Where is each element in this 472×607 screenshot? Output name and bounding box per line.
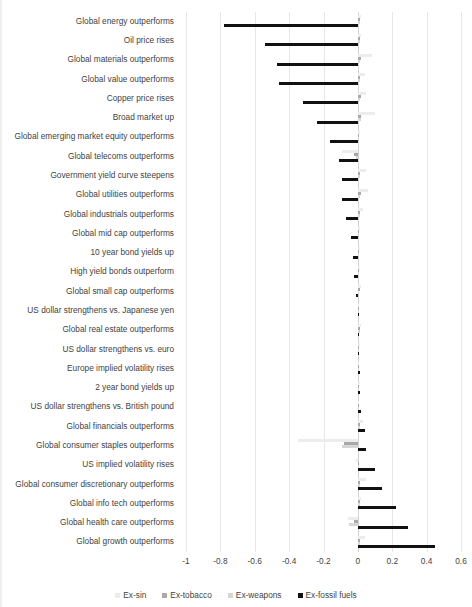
gridline: [220, 12, 221, 552]
category-label: Global consumer discretionary outperform…: [15, 480, 174, 489]
bar: [358, 40, 360, 43]
category-label: Global mid cap outperforms: [72, 229, 174, 238]
category-label: Global emerging market equity outperform…: [14, 132, 174, 141]
category-label: Global utilities outperforms: [76, 190, 174, 199]
legend-item[interactable]: Ex-fossil fuels: [298, 590, 357, 600]
gridline: [461, 12, 462, 552]
bar: [349, 523, 358, 526]
bar: [358, 21, 360, 24]
bar: [279, 82, 358, 85]
legend-item[interactable]: Ex-weapons: [228, 590, 282, 600]
gridline: [427, 12, 428, 552]
category-label: Global consumer staples outperforms: [36, 441, 174, 450]
bar: [346, 217, 358, 220]
bar: [354, 275, 357, 278]
gridline: [392, 12, 393, 552]
category-label: Global value outperforms: [81, 75, 174, 84]
category-label: Global small cap outperforms: [66, 287, 174, 296]
x-tick-label: -0.6: [248, 556, 262, 566]
bar: [358, 313, 359, 316]
category-label: US dollar strengthens vs. euro: [62, 345, 174, 354]
legend-item[interactable]: Ex-tobacco: [162, 590, 212, 600]
x-tick-label: 0.2: [386, 556, 398, 566]
category-label: Global telecoms outperforms: [68, 152, 174, 161]
gridline: [324, 12, 325, 552]
bar: [224, 24, 358, 27]
bar: [358, 175, 360, 178]
bar: [358, 352, 359, 355]
category-label: Global real estate outperforms: [62, 325, 174, 334]
x-tick-label: -0.2: [316, 556, 330, 566]
bar: [358, 429, 365, 432]
gridline: [255, 12, 256, 552]
category-label: Global health care outperforms: [60, 518, 174, 527]
category-label: Broad market up: [113, 113, 174, 122]
gridline: [186, 12, 187, 552]
category-label: Global financials outperforms: [67, 422, 174, 431]
category-label: 2 year bond yields up: [95, 383, 174, 392]
x-tick-label: 0.6: [455, 556, 467, 566]
bar: [358, 410, 361, 413]
x-tick-label: 0: [356, 556, 361, 566]
bar: [358, 98, 360, 101]
bar: [358, 468, 375, 471]
bar: [342, 178, 357, 181]
legend-swatch-icon: [115, 593, 120, 598]
bar: [358, 214, 360, 217]
category-label: US implied volatility rises: [82, 460, 174, 469]
category-axis-labels: Global energy outperformsOil price rises…: [0, 12, 180, 552]
legend-label: Ex-sin: [123, 590, 146, 600]
bar: [358, 272, 359, 275]
bar: [358, 291, 359, 294]
x-tick-label: 0.4: [421, 556, 433, 566]
legend-label: Ex-weapons: [236, 590, 282, 600]
gridline: [289, 12, 290, 552]
legend-swatch-icon: [298, 593, 303, 598]
category-label: Oil price rises: [124, 36, 174, 45]
bar: [358, 448, 367, 451]
category-label: Global growth outperforms: [76, 537, 174, 546]
chart-legend: Ex-sinEx-tobaccoEx-weaponsEx-fossil fuel…: [0, 588, 472, 602]
bar: [356, 294, 358, 297]
category-label: Global energy outperforms: [76, 17, 174, 26]
x-tick-label: -0.4: [282, 556, 296, 566]
category-label: Global materials outperforms: [67, 55, 174, 64]
bar: [342, 445, 357, 448]
category-label: 10 year bond yields up: [91, 248, 175, 257]
bar: [317, 121, 358, 124]
category-label: Copper price rises: [107, 94, 174, 103]
bar: [339, 159, 358, 162]
bar: [342, 198, 357, 201]
bar: [265, 43, 358, 46]
x-tick-label: -0.8: [213, 556, 227, 566]
category-label: US dollar strengthens vs. Japanese yen: [27, 306, 174, 315]
category-label: Global info tech outperforms: [70, 499, 174, 508]
value-axis: -1-0.8-0.6-0.4-0.200.20.40.6: [186, 556, 461, 570]
category-label: US dollar strengthens vs. British pound: [31, 402, 174, 411]
bar: [358, 487, 382, 490]
bar: [358, 506, 396, 509]
legend-swatch-icon: [162, 593, 167, 598]
bar: [358, 79, 360, 82]
legend-label: Ex-fossil fuels: [306, 590, 357, 600]
category-label: Government yield curve steepens: [50, 171, 174, 180]
bar-chart: Global energy outperformsOil price rises…: [0, 0, 472, 607]
bar: [358, 195, 360, 198]
bar: [358, 545, 435, 548]
bar: [358, 526, 408, 529]
bar: [358, 60, 360, 63]
bar: [358, 391, 360, 394]
bar: [277, 63, 358, 66]
bar: [353, 256, 358, 259]
bar: [330, 140, 358, 143]
bar: [358, 137, 359, 140]
legend-label: Ex-tobacco: [170, 590, 212, 600]
category-label: High yield bonds outperform: [70, 267, 174, 276]
legend-item[interactable]: Ex-sin: [115, 590, 146, 600]
bar: [358, 371, 360, 374]
category-label: Global industrials outperforms: [64, 210, 174, 219]
bar: [358, 118, 361, 121]
category-label: Europe implied volatility rises: [67, 364, 174, 373]
legend-swatch-icon: [228, 593, 233, 598]
bar: [358, 253, 359, 256]
